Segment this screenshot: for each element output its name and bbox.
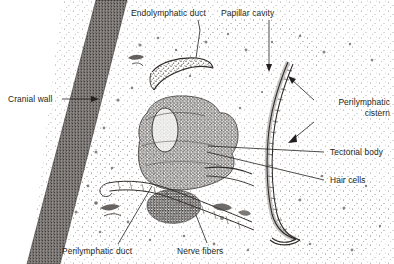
diagram-canvas <box>0 0 394 264</box>
label-perilymphatic-cistern-line1: Perilymphatic <box>338 97 390 107</box>
label-tectorial-body: Tectorial body <box>330 147 383 158</box>
label-papillar-cavity: Papillar cavity <box>221 8 274 19</box>
label-perilymphatic-cistern-line2: cistern <box>365 108 390 118</box>
label-cranial-wall: Cranial wall <box>8 94 53 105</box>
label-perilymphatic-cistern: Perilymphatic cistern <box>318 97 390 118</box>
label-nerve-fibers: Nerve fibers <box>177 246 223 257</box>
label-endolymphatic-duct: Endolymphatic duct <box>131 8 206 19</box>
inner-ear-diagram: Endolymphatic duct Papillar cavity Crani… <box>0 0 394 264</box>
label-hair-cells: Hair cells <box>330 175 365 186</box>
label-perilymphatic-duct: Perilymphatic duct <box>62 246 132 257</box>
